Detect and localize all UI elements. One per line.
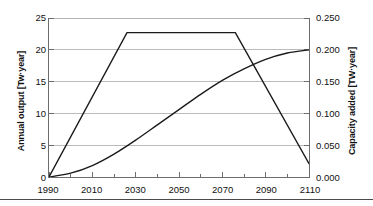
y-tick-label-left: 0	[20, 173, 46, 183]
x-tick-label: 2070	[203, 184, 243, 196]
x-axis-ticks: 1990201020302050207020902110	[0, 184, 373, 198]
x-tick-label: 2010	[72, 184, 112, 196]
x-tick-label: 2090	[246, 184, 286, 196]
y-tick-label-left: 10	[20, 109, 46, 119]
y-tick-label-right: 0.100	[316, 109, 356, 119]
chart-figure: Annual output [Tw·year] Capacity added […	[0, 0, 373, 206]
y-tick-label-left: 15	[20, 77, 46, 87]
y-tick-label-left: 25	[20, 13, 46, 23]
y-tick-label-left: 20	[20, 45, 46, 55]
data-curves	[49, 18, 309, 177]
y-tick-label-right: 0.050	[316, 141, 356, 151]
x-tick-label: 2030	[115, 184, 155, 196]
y-axis-left-ticks: 0510152025	[20, 0, 46, 206]
bottom-rule	[0, 199, 373, 200]
y-axis-right-ticks: 0.0000.0500.1000.1500.2000.250	[316, 0, 356, 206]
y-tick-label-right: 0.250	[316, 13, 356, 23]
y-tick-label-left: 5	[20, 141, 46, 151]
x-tick-label: 2050	[159, 184, 199, 196]
x-tick-label: 1990	[28, 184, 68, 196]
y-tick-label-right: 0.150	[316, 77, 356, 87]
plot-area	[48, 18, 310, 178]
x-tick-label: 2110	[290, 184, 330, 196]
y-tick-label-right: 0.200	[316, 45, 356, 55]
y-tick-label-right: 0.000	[316, 173, 356, 183]
